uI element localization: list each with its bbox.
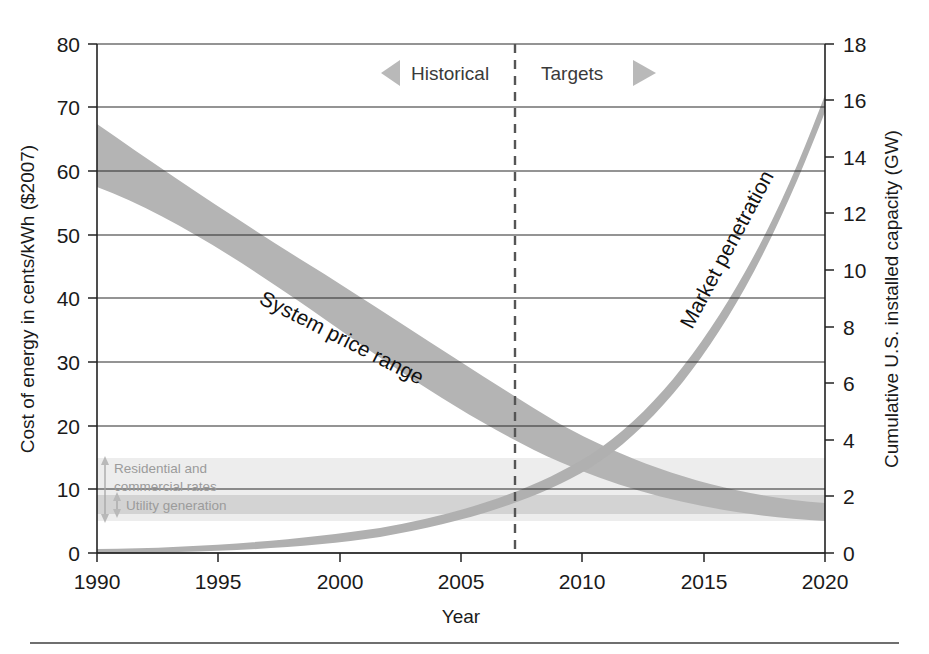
bottom-tick-label: 1990	[74, 570, 121, 593]
bottom-tick-label: 1995	[195, 570, 242, 593]
left-tick-label: 0	[68, 542, 80, 565]
utility-generation-label: Utility generation	[126, 498, 227, 513]
left-tick-label: 80	[57, 33, 80, 56]
bottom-tick-label: 2015	[681, 570, 728, 593]
bottom-tick-label: 2005	[438, 570, 485, 593]
chart-canvas: 80 70 60 50 40 30 20 10 0 18 16 14 12 10…	[0, 0, 929, 654]
right-tick-label: 16	[843, 89, 866, 112]
residential-rates-label-line1: Residential and	[114, 461, 207, 476]
left-axis-ticks	[88, 44, 97, 553]
right-axis-title: Cumulative U.S. installed capacity (GW)	[881, 130, 902, 468]
chart-figure: 80 70 60 50 40 30 20 10 0 18 16 14 12 10…	[0, 0, 929, 654]
right-tick-label: 0	[843, 542, 855, 565]
right-tick-label: 10	[843, 259, 866, 282]
right-tick-label: 18	[843, 33, 866, 56]
left-tick-label: 40	[57, 287, 80, 310]
right-axis-ticks	[825, 44, 834, 553]
historical-arrow-left-icon	[381, 60, 400, 86]
right-tick-label: 12	[843, 202, 866, 225]
residential-rates-label-line2: commercial rates	[114, 479, 217, 494]
left-tick-label: 20	[57, 415, 80, 438]
historical-label: Historical	[411, 63, 489, 84]
phase-annotations: Historical Targets	[381, 60, 656, 86]
right-tick-label: 6	[843, 372, 855, 395]
right-tick-label: 8	[843, 316, 855, 339]
right-tick-label: 4	[843, 429, 855, 452]
right-tick-label: 2	[843, 485, 855, 508]
bottom-tick-labels: 1990 1995 2000 2005 2010 2015 2020	[74, 570, 849, 593]
left-tick-label: 10	[57, 478, 80, 501]
figure-footer-rule	[30, 642, 899, 644]
left-tick-label: 50	[57, 224, 80, 247]
bottom-tick-label: 2020	[802, 570, 849, 593]
left-axis-title: Cost of energy in cents/kWh ($2007)	[17, 145, 38, 453]
bottom-tick-label: 2010	[559, 570, 606, 593]
left-tick-label: 70	[57, 96, 80, 119]
right-tick-labels: 18 16 14 12 10 8 6 4 2 0	[843, 33, 867, 565]
bottom-tick-label: 2000	[317, 570, 364, 593]
bottom-axis-ticks	[97, 553, 825, 562]
left-tick-labels: 80 70 60 50 40 30 20 10 0	[57, 33, 80, 565]
targets-arrow-right-icon	[633, 60, 656, 86]
right-tick-label: 14	[843, 146, 867, 169]
targets-label: Targets	[541, 63, 603, 84]
left-tick-label: 30	[57, 351, 80, 374]
x-axis-title: Year	[442, 606, 481, 627]
left-tick-label: 60	[57, 160, 80, 183]
